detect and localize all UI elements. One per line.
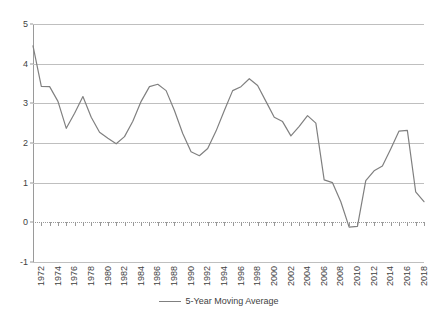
chart-legend: 5-Year Moving Average (0, 296, 438, 306)
x-tick-label: 1986 (153, 266, 162, 286)
series-line-group (33, 24, 424, 262)
x-tick-label: 2014 (386, 266, 395, 286)
series-line-5-year-moving-average (33, 46, 424, 227)
legend-line-swatch (159, 301, 181, 302)
x-tick-label: 2018 (420, 266, 429, 286)
x-axis-labels: 1972197419761978198019821984198619881990… (33, 266, 424, 298)
y-tick-label: -1 (20, 258, 33, 267)
y-tick-label: 2 (23, 139, 33, 148)
x-tick-label: 1978 (87, 266, 96, 286)
y-tick-label: 0 (23, 218, 33, 227)
x-tick-label: 1976 (70, 266, 79, 286)
x-tick-label: 2000 (270, 266, 279, 286)
x-tick-label: 1998 (253, 266, 262, 286)
y-tick-label: 5 (23, 20, 33, 29)
x-tick-label: 2010 (353, 266, 362, 286)
y-tick-label: 1 (23, 178, 33, 187)
x-tick (424, 222, 425, 226)
x-tick-label: 2008 (336, 266, 345, 286)
x-tick-label: 1980 (104, 266, 113, 286)
x-tick-label: 1982 (120, 266, 129, 286)
x-tick-label: 1988 (170, 266, 179, 286)
legend-label: 5-Year Moving Average (185, 296, 278, 306)
gridline--1 (33, 262, 424, 263)
x-tick-label: 2016 (403, 266, 412, 286)
x-tick-label: 1984 (137, 266, 146, 286)
x-tick-label: 1992 (203, 266, 212, 286)
y-tick-label: 4 (23, 59, 33, 68)
x-tick-label: 2012 (370, 266, 379, 286)
x-tick-label: 1972 (37, 266, 46, 286)
x-tick-label: 2004 (303, 266, 312, 286)
x-tick-label: 1990 (187, 266, 196, 286)
y-tick-label: 3 (23, 99, 33, 108)
chart-container: 543210-1 1972197419761978198019821984198… (0, 0, 438, 316)
x-tick-label: 1996 (237, 266, 246, 286)
x-tick-label: 1994 (220, 266, 229, 286)
x-tick-label: 2006 (320, 266, 329, 286)
x-tick-label: 2002 (287, 266, 296, 286)
x-tick-label: 1974 (54, 266, 63, 286)
plot-area: 543210-1 (33, 24, 424, 262)
